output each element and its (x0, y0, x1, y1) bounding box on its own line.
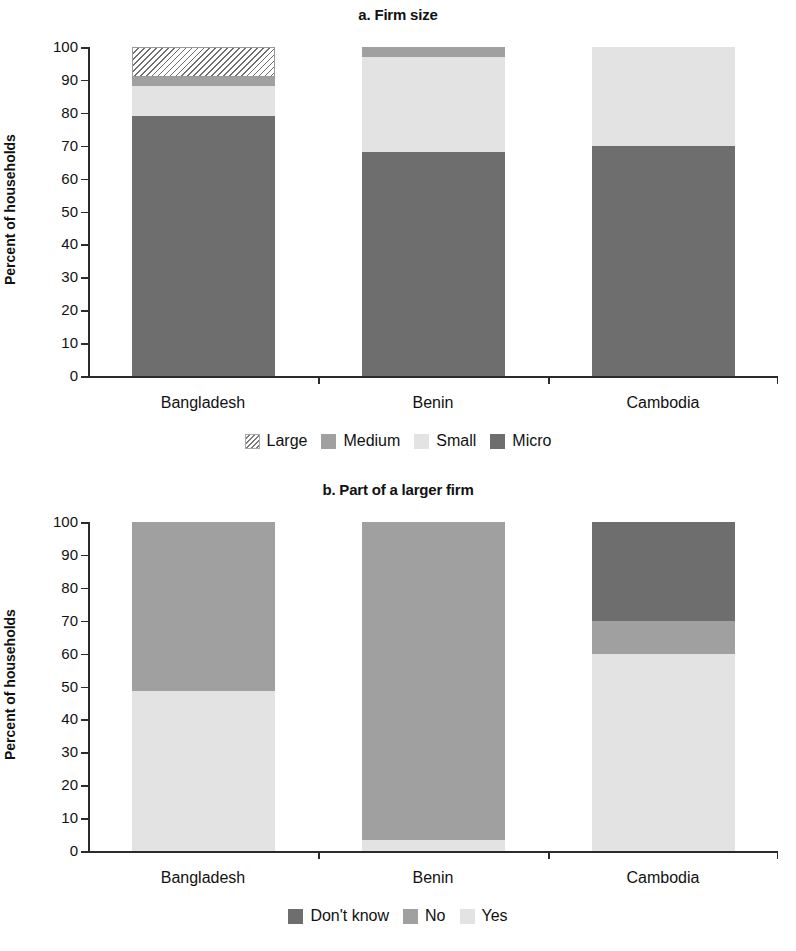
y-axis-tick (81, 80, 88, 82)
legend-item-yes[interactable]: Yes (460, 907, 508, 925)
legend-label: Large (267, 432, 308, 450)
y-axis-tick-label: 70 (61, 612, 78, 629)
bar-segment-yes[interactable] (132, 691, 275, 851)
y-axis-tick (81, 621, 88, 623)
x-axis-category-label-benin: Benin (318, 869, 548, 887)
bar-segment-medium[interactable] (132, 77, 275, 87)
bar-segment-no[interactable] (362, 522, 505, 839)
bar-segment-micro[interactable] (362, 152, 505, 376)
panel-a-legend: LargeMediumSmallMicro (0, 432, 796, 450)
bar-segment-small[interactable] (132, 86, 275, 116)
y-axis-tick (81, 555, 88, 557)
panel-a-title: a. Firm size (0, 6, 796, 23)
bar-segment-small[interactable] (362, 57, 505, 152)
y-axis-tick (81, 277, 88, 279)
y-axis-tick-label: 50 (61, 203, 78, 220)
y-axis-tick (81, 654, 88, 656)
panel-a-plot-area: 1009080706050403020100BangladeshBeninCam… (88, 47, 778, 376)
panel-b-legend: Don't knowNoYes (0, 907, 796, 925)
y-axis-tick (81, 47, 88, 49)
bar-cambodia[interactable] (592, 522, 735, 851)
y-axis-tick-label: 20 (61, 776, 78, 793)
legend-item-small[interactable]: Small (414, 432, 476, 450)
y-axis-tick-label: 40 (61, 711, 78, 728)
y-axis-tick (81, 752, 88, 754)
panel-b-plot-area: 1009080706050403020100BangladeshBeninCam… (88, 522, 778, 851)
y-axis-tick-label: 30 (61, 268, 78, 285)
bar-segment-yes[interactable] (592, 654, 735, 851)
legend-label: Small (436, 432, 476, 450)
bar-segment-don-t-know[interactable] (592, 522, 735, 621)
bar-benin[interactable] (362, 47, 505, 376)
bar-segment-micro[interactable] (132, 116, 275, 376)
y-axis-tick (81, 719, 88, 721)
x-axis-tick (318, 376, 320, 384)
bar-bangladesh[interactable] (132, 522, 275, 851)
bar-segment-large[interactable] (132, 47, 275, 77)
legend-item-don-t-know[interactable]: Don't know (288, 907, 389, 925)
x-axis-category-label-bangladesh: Bangladesh (88, 394, 318, 412)
legend-item-medium[interactable]: Medium (321, 432, 400, 450)
bar-benin[interactable] (362, 522, 505, 851)
y-axis-tick-label: 90 (61, 71, 78, 88)
y-axis-tick (81, 244, 88, 246)
y-axis-tick (81, 851, 88, 853)
y-axis-tick-label: 20 (61, 301, 78, 318)
panel-b-title: b. Part of a larger firm (0, 481, 796, 498)
x-axis-tick (777, 376, 779, 384)
chart-panel-part-of-larger-firm: b. Part of a larger firm Percent of hous… (0, 475, 796, 950)
y-axis-tick-label: 0 (70, 842, 78, 859)
bar-bangladesh[interactable] (132, 47, 275, 376)
x-axis-line (88, 851, 778, 853)
y-axis-tick-label: 80 (61, 104, 78, 121)
panel-b-y-axis-label: Percent of households (2, 570, 28, 800)
y-axis-tick (81, 785, 88, 787)
panel-a-y-axis-label: Percent of households (2, 95, 28, 325)
bar-segment-small[interactable] (592, 47, 735, 146)
legend-item-no[interactable]: No (403, 907, 445, 925)
legend-swatch-small-icon (414, 434, 429, 449)
y-axis-tick-label: 70 (61, 137, 78, 154)
y-axis-tick-label: 60 (61, 645, 78, 662)
legend-swatch-don-t-know-icon (288, 909, 303, 924)
y-axis-tick-label: 60 (61, 170, 78, 187)
y-axis-tick (81, 522, 88, 524)
y-axis-tick (81, 212, 88, 214)
legend-label: No (425, 907, 445, 925)
y-axis-tick-label: 30 (61, 743, 78, 760)
legend-item-micro[interactable]: Micro (490, 432, 551, 450)
x-axis-category-label-cambodia: Cambodia (548, 394, 778, 412)
y-axis-tick (81, 343, 88, 345)
y-axis-tick (81, 113, 88, 115)
x-axis-category-label-cambodia: Cambodia (548, 869, 778, 887)
legend-label: Medium (343, 432, 400, 450)
y-axis-tick-label: 80 (61, 579, 78, 596)
legend-item-large[interactable]: Large (245, 432, 308, 450)
y-axis-tick (81, 179, 88, 181)
bar-segment-micro[interactable] (592, 146, 735, 376)
bar-cambodia[interactable] (592, 47, 735, 376)
bar-segment-yes[interactable] (362, 840, 505, 852)
x-axis-tick (548, 851, 550, 859)
y-axis-tick (81, 146, 88, 148)
legend-swatch-micro-icon (490, 434, 505, 449)
y-axis-tick (81, 687, 88, 689)
y-axis-tick-label: 100 (53, 38, 78, 55)
y-axis-tick-label: 10 (61, 334, 78, 351)
bar-segment-no[interactable] (592, 621, 735, 654)
bar-segment-no[interactable] (132, 522, 275, 691)
x-axis-category-label-bangladesh: Bangladesh (88, 869, 318, 887)
chart-panel-firm-size: a. Firm size Percent of households 10090… (0, 0, 796, 475)
y-axis-tick (81, 376, 88, 378)
bar-segment-medium[interactable] (362, 47, 505, 57)
x-axis-tick (548, 376, 550, 384)
legend-label: Don't know (310, 907, 389, 925)
y-axis-tick (81, 818, 88, 820)
y-axis-tick-label: 0 (70, 367, 78, 384)
legend-label: Yes (482, 907, 508, 925)
y-axis-tick-label: 10 (61, 809, 78, 826)
y-axis-tick-label: 40 (61, 236, 78, 253)
legend-swatch-medium-icon (321, 434, 336, 449)
y-axis-line (88, 47, 90, 376)
y-axis-tick (81, 310, 88, 312)
